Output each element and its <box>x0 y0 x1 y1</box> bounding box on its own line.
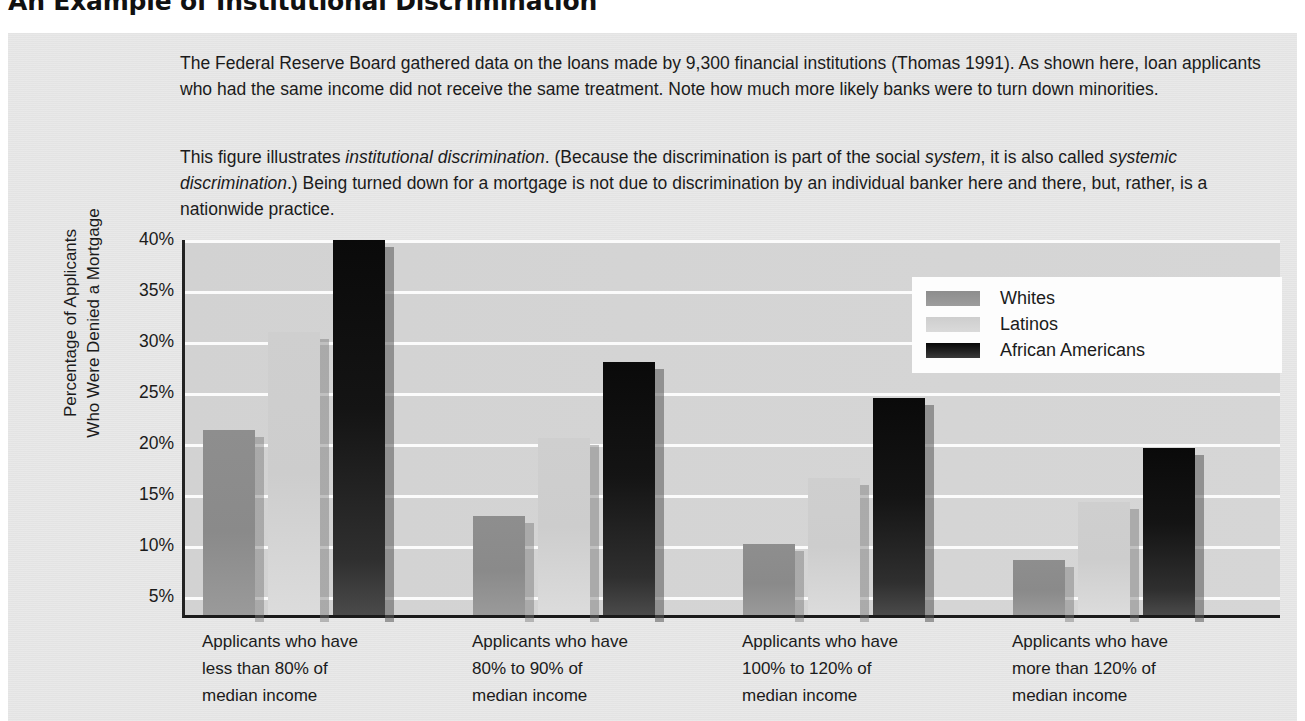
bar-african <box>603 362 655 615</box>
legend-swatch-african <box>926 343 980 358</box>
bar-body <box>1143 448 1195 615</box>
y-tick-label: 10% <box>112 535 174 556</box>
x-category-line: Applicants who have <box>742 628 992 655</box>
bar-body <box>538 438 590 615</box>
legend-item-whites: Whites <box>926 285 1268 311</box>
bar-body <box>333 240 385 615</box>
y-axis-label-line2: Who Were Denied a Mortgage <box>84 208 103 437</box>
y-tick-label: 30% <box>112 331 174 352</box>
bar-shadow <box>385 247 394 622</box>
y-axis-label-line1: Percentage of Applicants <box>61 229 80 417</box>
x-category-line: Applicants who have <box>472 628 722 655</box>
bar-shadow <box>860 485 869 622</box>
x-category-line: Applicants who have <box>202 628 452 655</box>
legend-swatch-whites <box>926 291 980 306</box>
x-category-label: Applicants who havemore than 120% ofmedi… <box>1012 628 1262 709</box>
bar-african <box>333 240 385 615</box>
figure-institutional-discrimination: An Example of Institutional Discriminati… <box>0 0 1305 721</box>
y-axis-label: Percentage of Applicants Who Were Denied… <box>59 123 105 523</box>
bar-shadow <box>925 405 934 622</box>
legend-item-latinos: Latinos <box>926 311 1268 337</box>
chart-legend: WhitesLatinosAfrican Americans <box>912 277 1282 373</box>
bar-shadow <box>1065 567 1074 622</box>
legend-label-whites: Whites <box>1000 288 1055 309</box>
x-category-line: less than 80% of <box>202 655 452 682</box>
y-tick-label: 20% <box>112 433 174 454</box>
bar-body <box>603 362 655 615</box>
bar-shadow <box>1130 509 1139 622</box>
bar-body <box>743 544 795 615</box>
legend-item-african: African Americans <box>926 337 1268 363</box>
x-category-label: Applicants who haveless than 80% ofmedia… <box>202 628 452 709</box>
bar-chart: Percentage of Applicants Who Were Denied… <box>0 0 1305 721</box>
bar-body <box>203 430 255 615</box>
bar-body <box>268 332 320 615</box>
bar-shadow <box>525 523 534 622</box>
x-category-line: more than 120% of <box>1012 655 1262 682</box>
x-axis-category-labels: Applicants who haveless than 80% ofmedia… <box>182 628 1277 721</box>
bar-group <box>203 240 398 615</box>
y-tick-label: 35% <box>112 280 174 301</box>
x-category-line: median income <box>202 682 452 709</box>
bar-african <box>873 398 925 615</box>
y-tick-label: 40% <box>112 229 174 250</box>
bar-body <box>873 398 925 615</box>
x-category-line: 80% to 90% of <box>472 655 722 682</box>
legend-label-latinos: Latinos <box>1000 314 1058 335</box>
y-tick-label: 15% <box>112 484 174 505</box>
bar-whites <box>1013 560 1065 615</box>
bar-body <box>1013 560 1065 615</box>
bar-latinos <box>268 332 320 615</box>
bar-latinos <box>538 438 590 615</box>
x-category-line: median income <box>472 682 722 709</box>
bar-shadow <box>795 551 804 622</box>
x-category-line: Applicants who have <box>1012 628 1262 655</box>
bar-shadow <box>320 339 329 622</box>
x-category-label: Applicants who have80% to 90% ofmedian i… <box>472 628 722 709</box>
bar-shadow <box>1195 455 1204 622</box>
bar-body <box>808 478 860 615</box>
bar-shadow <box>655 369 664 622</box>
x-category-label: Applicants who have100% to 120% ofmedian… <box>742 628 992 709</box>
bar-body <box>1078 502 1130 615</box>
bar-latinos <box>1078 502 1130 615</box>
x-category-line: 100% to 120% of <box>742 655 992 682</box>
x-category-line: median income <box>742 682 992 709</box>
bar-shadow <box>255 437 264 622</box>
bar-body <box>473 516 525 615</box>
bar-whites <box>473 516 525 615</box>
y-tick-label: 25% <box>112 382 174 403</box>
bar-group <box>473 240 668 615</box>
y-axis-ticks: 40%35%30%25%20%15%10%5% <box>108 0 174 721</box>
legend-swatch-latinos <box>926 317 980 332</box>
x-category-line: median income <box>1012 682 1262 709</box>
y-tick-label: 5% <box>112 586 174 607</box>
bar-whites <box>203 430 255 615</box>
legend-label-african: African Americans <box>1000 340 1145 361</box>
bar-shadow <box>590 445 599 622</box>
bar-african <box>1143 448 1195 615</box>
bar-whites <box>743 544 795 615</box>
bar-group <box>743 240 938 615</box>
bar-latinos <box>808 478 860 615</box>
